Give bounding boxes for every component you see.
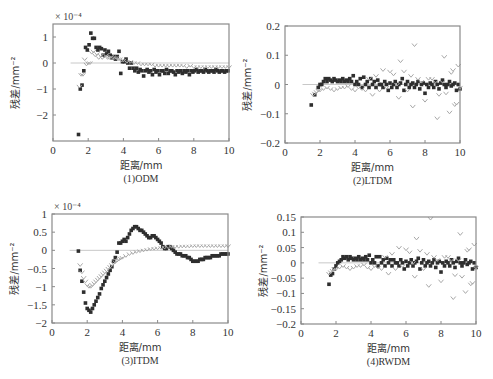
x-tick-label: 10: [471, 327, 483, 339]
data-point: [373, 261, 377, 265]
data-point: [414, 237, 419, 240]
data-point: [402, 267, 406, 271]
data-point: [327, 282, 331, 286]
data-point: [366, 258, 370, 262]
data-point: [451, 297, 456, 300]
y-axis-title: 残差/mm⁻²: [257, 244, 269, 296]
data-point: [404, 260, 408, 264]
data-point: [369, 267, 374, 270]
data-point: [469, 260, 473, 264]
data-point: [434, 266, 438, 270]
subplot-caption: (4)RWDM: [367, 356, 410, 368]
data-point: [458, 232, 463, 235]
data-point: [367, 253, 371, 257]
data-point: [409, 258, 413, 262]
y-tick-label: −0.05: [271, 272, 297, 284]
data-point: [378, 255, 382, 259]
data-point: [390, 264, 394, 268]
data-point: [388, 258, 392, 262]
x-axis-title: 距离/mm: [367, 342, 410, 354]
data-point: [471, 267, 475, 271]
x-tick-label: 0: [298, 327, 304, 339]
data-point: [383, 264, 387, 268]
plot-frame: [301, 217, 476, 324]
data-point: [404, 248, 409, 251]
data-point: [463, 290, 468, 293]
data-point: [348, 267, 353, 270]
data-point: [464, 258, 468, 262]
data-point: [451, 261, 455, 265]
data-point: [425, 252, 430, 255]
data-point: [379, 267, 384, 270]
y-tick-label: −0.2: [276, 318, 296, 330]
data-point: [448, 264, 452, 268]
y-tick-label: 0.05: [277, 242, 297, 254]
data-point: [439, 270, 443, 274]
data-point: [418, 249, 423, 252]
data-point: [470, 281, 475, 284]
data-point: [467, 248, 472, 251]
data-point: [374, 255, 378, 259]
data-point: [386, 272, 391, 275]
data-point: [439, 280, 444, 283]
data-point: [358, 264, 363, 267]
data-point: [397, 246, 402, 249]
x-tick-label: 8: [438, 327, 444, 339]
y-tick-label: 0.15: [277, 211, 297, 223]
data-point: [432, 255, 437, 258]
data-point: [446, 255, 451, 258]
data-point: [422, 258, 426, 262]
y-tick-label: 0.1: [282, 226, 296, 238]
data-point: [427, 260, 431, 264]
x-tick-label: 6: [403, 327, 409, 339]
data-point: [390, 252, 395, 255]
data-point: [416, 256, 420, 260]
data-point: [412, 275, 417, 278]
data-point: [407, 251, 412, 254]
data-point: [393, 267, 398, 270]
data-point: [401, 261, 405, 265]
y-tick-label: −0.1: [276, 287, 296, 299]
data-point: [381, 258, 385, 262]
x-tick-label: 4: [368, 327, 374, 339]
y-tick-label: 0: [291, 257, 297, 269]
data-point: [453, 274, 458, 277]
subplot-rwdm: 0246810−0.2−0.15−0.1−0.0500.050.10.15距离/…: [0, 0, 493, 379]
y-tick-label: −0.15: [271, 303, 297, 315]
data-point: [443, 264, 447, 268]
x-tick-label: 2: [333, 327, 339, 339]
data-point: [426, 284, 431, 287]
data-point: [460, 275, 465, 278]
data-point: [453, 266, 457, 270]
